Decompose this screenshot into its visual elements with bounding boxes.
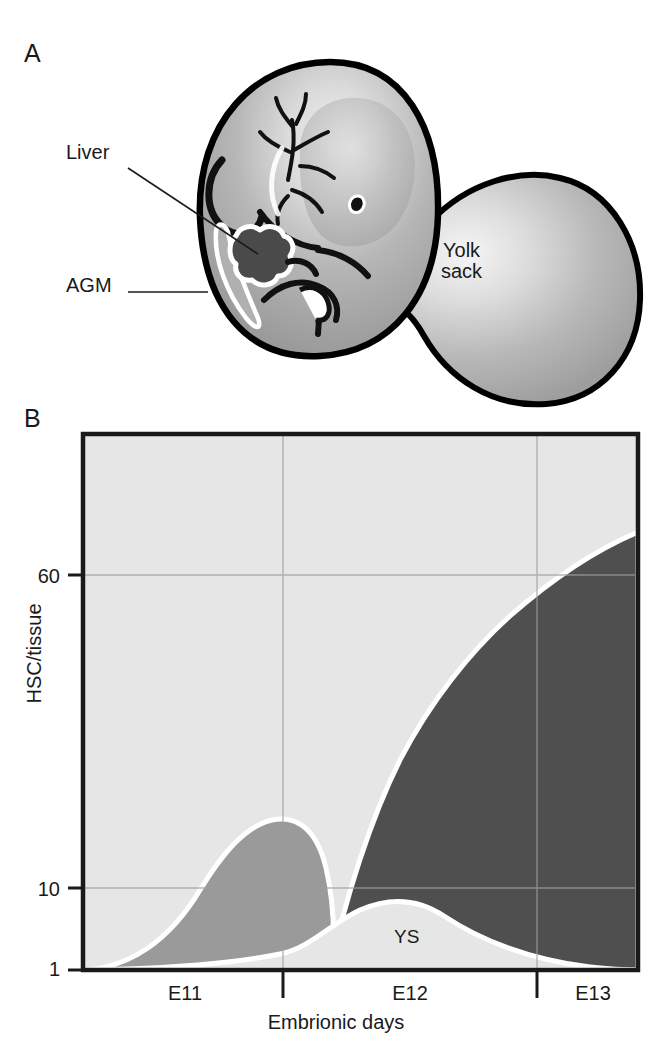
xtick-label-e12: E12 bbox=[365, 982, 455, 1005]
figure-root: A bbox=[0, 0, 672, 1053]
xtick-label-e13: E13 bbox=[548, 982, 638, 1005]
y-axis-title: HSC/tissue bbox=[23, 603, 45, 703]
liver-annotation-label: Liver bbox=[66, 142, 109, 163]
panel-a-embryo-diagram: A bbox=[0, 0, 672, 420]
ytick-label-1: 1 bbox=[14, 958, 60, 981]
agm-annotation-label: AGM bbox=[66, 275, 112, 296]
yolk-sack-annotation-label: Yolk sack bbox=[441, 240, 482, 282]
x-axis-title: Embrionic days bbox=[0, 1011, 672, 1034]
series-label-ys: YS bbox=[394, 926, 419, 948]
hsc-area-chart bbox=[0, 420, 672, 1053]
ytick-label-10: 10 bbox=[14, 878, 60, 901]
yolk-sack-label-line2: sack bbox=[441, 260, 482, 282]
embryo-illustration bbox=[0, 0, 672, 420]
panel-b-hsc-chart: B bbox=[0, 420, 672, 1053]
y-axis-title-wrapper: HSC/tissue bbox=[23, 574, 46, 734]
xtick-label-e11: E11 bbox=[140, 982, 230, 1005]
yolk-sack-label-line1: Yolk bbox=[443, 239, 480, 261]
